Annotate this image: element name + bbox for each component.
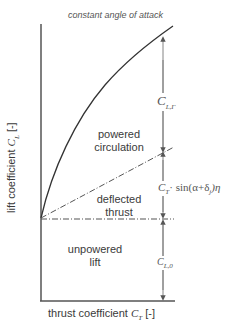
thrust-term-label: CT· sin(α+δj)η: [158, 181, 220, 196]
region-line: circulation: [84, 141, 154, 154]
cl-zero-label: CL,0: [157, 256, 173, 270]
cl-gamma-label: CL,Γ: [157, 93, 175, 111]
region-line: lift: [60, 256, 130, 269]
diagram-canvas: [0, 0, 238, 334]
region-line: powered: [84, 128, 154, 141]
y-axis-label: lift coefficient CL [-]: [5, 103, 20, 233]
total-lift-curve: [41, 26, 173, 218]
region-unpowered-lift: unpowered lift: [60, 243, 130, 269]
chart-title: constant angle of attack: [68, 9, 163, 22]
region-powered-circulation: powered circulation: [84, 128, 154, 154]
region-line: unpowered: [60, 243, 130, 256]
region-deflected-thrust: deflected thrust: [84, 193, 154, 219]
region-line: deflected: [84, 193, 154, 206]
x-axis-label: thrust coefficient CT [-]: [48, 307, 155, 322]
region-line: thrust: [84, 206, 154, 219]
